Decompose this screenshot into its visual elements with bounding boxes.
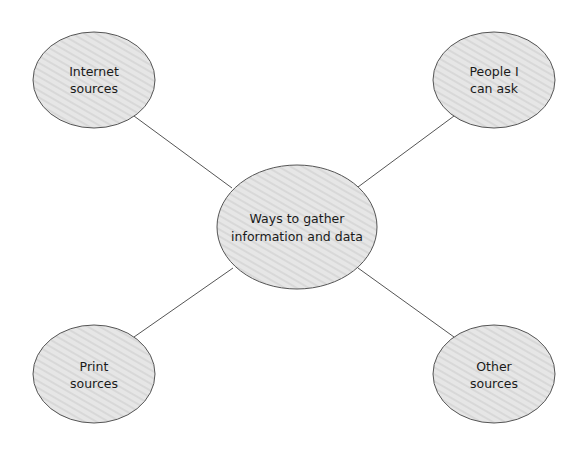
connector-people xyxy=(358,116,454,187)
node-center: Ways to gather information and data xyxy=(217,165,377,289)
node-people-i-can-ask: People I can ask xyxy=(433,32,555,128)
node-label: People I xyxy=(469,64,518,79)
center-label: Ways to gather xyxy=(250,211,346,226)
node-label: can ask xyxy=(470,81,519,96)
center-label: information and data xyxy=(231,229,363,244)
concept-map: Internet sources People I can ask Ways t… xyxy=(0,0,583,449)
node-label: sources xyxy=(470,376,518,391)
connector-other xyxy=(358,268,454,337)
node-label: sources xyxy=(70,376,118,391)
node-other-sources: Other sources xyxy=(433,325,555,423)
node-label: sources xyxy=(70,81,118,96)
node-label: Print xyxy=(80,359,109,374)
node-label: Internet xyxy=(69,64,119,79)
connector-print xyxy=(134,268,233,337)
node-label: Other xyxy=(476,359,512,374)
node-internet-sources: Internet sources xyxy=(33,32,155,128)
connector-internet xyxy=(134,116,232,188)
node-print-sources: Print sources xyxy=(33,325,155,423)
